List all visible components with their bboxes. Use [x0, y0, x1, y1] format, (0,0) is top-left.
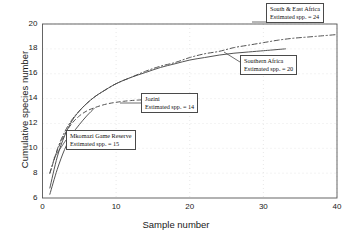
annotation-jozini: Jozini Estimated spp. = 14	[141, 93, 198, 113]
x-axis-title: Sample number	[0, 219, 352, 230]
annotation-title: Jozini	[145, 95, 194, 103]
y-axis-title: Cumulative species number	[19, 20, 30, 200]
annotation-title: South & East Africa	[270, 5, 320, 13]
annotation-southern-africa: Southern Africa Estimated spp. = 20	[240, 55, 297, 75]
annotation-detail: Estimated spp. = 14	[145, 103, 194, 111]
annotation-mkomazi-game-reserve: Mkomazi Game Reserve Estimated spp. = 15	[66, 130, 136, 150]
annotation-title: Mkomazi Game Reserve	[70, 132, 132, 140]
annotation-detail: Estimated spp. = 15	[70, 140, 132, 148]
annotation-south-east-africa: South & East Africa Estimated spp. = 24	[266, 3, 324, 23]
plot-canvas	[0, 0, 352, 240]
x-tick-label: 20	[180, 202, 200, 211]
annotation-title: Southern Africa	[244, 57, 293, 65]
annotation-detail: Estimated spp. = 24	[270, 13, 320, 21]
x-tick-label: 30	[253, 202, 273, 211]
x-tick-label: 10	[106, 202, 126, 211]
species-accumulation-chart: South & East Africa Estimated spp. = 24 …	[0, 0, 352, 240]
annotation-detail: Estimated spp. = 20	[244, 65, 293, 73]
x-tick-label: 0	[33, 202, 53, 211]
x-tick-label: 40	[327, 202, 347, 211]
